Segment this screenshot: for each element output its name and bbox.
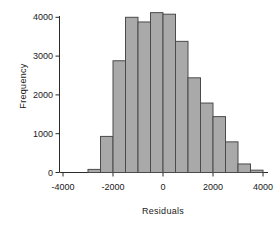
histogram-bar (188, 78, 201, 173)
histogram-bar (201, 103, 214, 172)
histogram-bar (213, 117, 226, 173)
plot-area (0, 0, 277, 229)
histogram-bar (226, 142, 239, 173)
x-tick-label: 2000 (190, 182, 236, 192)
y-tick-label: 2000 (25, 90, 53, 100)
x-tick-label: -4000 (40, 182, 86, 192)
y-tick-label: 4000 (25, 12, 53, 22)
x-tick-label: 0 (140, 182, 186, 192)
histogram-bar (163, 14, 176, 172)
y-tick-label: 1000 (25, 129, 53, 139)
histogram-bar (138, 22, 151, 173)
histogram-bar (113, 61, 126, 173)
y-tick-marks (56, 17, 60, 172)
histogram-bar (88, 169, 101, 172)
histogram-bar (101, 136, 114, 172)
histogram-bars (88, 13, 263, 173)
histogram-bar (238, 164, 251, 173)
histogram-bar (151, 13, 164, 173)
histogram-bar (251, 170, 264, 172)
x-tick-label: -2000 (90, 182, 136, 192)
histogram-bar (176, 41, 189, 172)
x-tick-label: 4000 (240, 182, 277, 192)
histogram-bar (126, 17, 139, 172)
y-tick-label: 3000 (25, 51, 53, 61)
histogram-figure: Frequency Residuals 01000200030004000 -4… (0, 0, 277, 229)
x-tick-marks (63, 173, 263, 177)
y-tick-label: 0 (25, 168, 53, 178)
